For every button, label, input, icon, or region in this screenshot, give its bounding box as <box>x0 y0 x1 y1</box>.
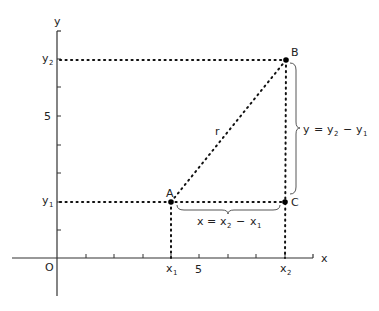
svg-text:x: x <box>220 215 227 228</box>
bc-segment <box>285 60 286 258</box>
point-a <box>168 199 174 205</box>
svg-text:2: 2 <box>334 130 338 138</box>
axes <box>12 31 313 296</box>
svg-text:x: x <box>280 262 287 275</box>
svg-text:y: y <box>42 194 49 207</box>
distance-formula-diagram: y x O 5 5 y 2 y 1 x 1 x 2 A B C r x = x … <box>0 0 379 311</box>
svg-text:x: x <box>197 215 204 228</box>
svg-text:2: 2 <box>287 269 291 277</box>
y-tick-5-label: 5 <box>44 110 51 123</box>
svg-text:1: 1 <box>363 130 367 138</box>
svg-text:=: = <box>207 215 216 228</box>
x-axis-label: x <box>321 252 328 265</box>
y2-label: y 2 <box>42 52 53 67</box>
horizontal-brace <box>177 205 280 214</box>
origin-label: O <box>45 261 54 274</box>
point-b <box>283 57 289 63</box>
svg-text:x: x <box>166 262 173 275</box>
svg-text:1: 1 <box>173 269 177 277</box>
x1-label: x 1 <box>166 262 177 277</box>
dotted-guides <box>60 60 286 258</box>
horizontal-equation: x = x 2 − x 1 <box>197 215 261 230</box>
y1-label: y 1 <box>42 194 53 209</box>
svg-text:1: 1 <box>257 222 261 230</box>
svg-text:2: 2 <box>227 222 231 230</box>
svg-text:−: − <box>343 123 352 136</box>
svg-text:x: x <box>250 215 257 228</box>
point-c-label: C <box>291 196 299 209</box>
x-tick-5-label: 5 <box>195 263 202 276</box>
svg-text:2: 2 <box>49 59 53 67</box>
x2-label: x 2 <box>280 262 291 277</box>
point-b-label: B <box>291 46 299 59</box>
svg-text:1: 1 <box>49 201 53 209</box>
svg-text:y: y <box>303 123 310 136</box>
svg-text:y: y <box>327 123 334 136</box>
svg-text:=: = <box>314 123 323 136</box>
svg-text:y: y <box>356 123 363 136</box>
vertical-brace <box>290 63 300 194</box>
points <box>168 57 289 205</box>
vertical-equation: y = y 2 − y 1 <box>303 123 367 138</box>
point-a-label: A <box>166 187 174 200</box>
segment-r-label: r <box>215 125 220 138</box>
y-axis-label: y <box>54 15 61 28</box>
ab-segment-r <box>171 60 286 202</box>
braces <box>177 63 300 214</box>
svg-text:y: y <box>42 52 49 65</box>
svg-text:−: − <box>236 215 245 228</box>
point-c <box>282 199 288 205</box>
